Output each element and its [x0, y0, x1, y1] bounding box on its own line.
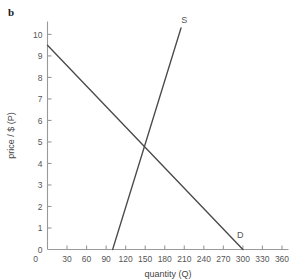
- y-tick-label: 7: [38, 94, 43, 104]
- y-tick-label: 1: [38, 223, 43, 233]
- x-tick-label: 60: [82, 254, 92, 264]
- x-tick-label: 210: [177, 254, 191, 264]
- curve-S: [113, 28, 181, 250]
- y-tick-label: 5: [38, 137, 43, 147]
- y-tick-label: 0: [38, 245, 43, 255]
- x-tick-label: 0: [33, 254, 38, 264]
- curve-label-S: S: [181, 15, 187, 25]
- supply-demand-figure: b 01234567891003060901201501802102402703…: [0, 0, 306, 280]
- y-tick-label: 4: [38, 159, 43, 169]
- y-tick-label: 8: [38, 73, 43, 83]
- x-tick-label: 120: [119, 254, 133, 264]
- x-tick-label: 240: [197, 254, 211, 264]
- y-tick-label: 9: [38, 51, 43, 61]
- x-tick-label: 330: [255, 254, 269, 264]
- chart-canvas: 0123456789100306090120150180210240270300…: [0, 0, 306, 280]
- curve-label-D: D: [237, 230, 244, 240]
- curve-D: [48, 45, 243, 249]
- x-axis-title: quantity (Q): [144, 269, 191, 279]
- y-tick-label: 10: [33, 30, 43, 40]
- x-tick-label: 270: [216, 254, 230, 264]
- y-tick-label: 2: [38, 202, 43, 212]
- x-tick-label: 90: [101, 254, 111, 264]
- y-tick-label: 3: [38, 180, 43, 190]
- x-tick-label: 150: [138, 254, 152, 264]
- x-tick-label: 180: [158, 254, 172, 264]
- x-tick-label: 360: [275, 254, 289, 264]
- x-tick-label: 30: [62, 254, 72, 264]
- y-tick-label: 6: [38, 116, 43, 126]
- x-tick-label: 300: [236, 254, 250, 264]
- y-axis-title: price / $ (P): [6, 112, 16, 159]
